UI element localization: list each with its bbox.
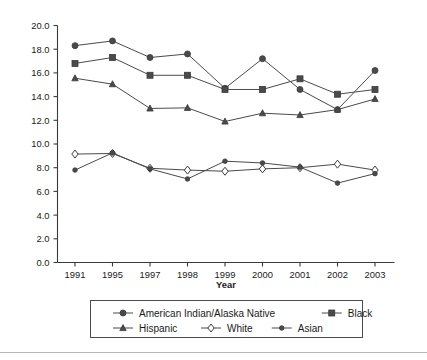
y-tick-label: 12.0	[31, 115, 49, 126]
data-point-marker	[259, 110, 265, 116]
x-tick-label: 1998	[177, 269, 198, 280]
data-point-marker	[72, 75, 78, 81]
x-tick-label: 1999	[215, 269, 236, 280]
data-point-marker	[72, 43, 78, 49]
data-point-marker	[147, 54, 153, 60]
x-tick-label: 2003	[365, 269, 386, 280]
legend-item-label: Hispanic	[139, 323, 177, 334]
data-point-marker	[73, 168, 78, 173]
data-point-marker	[185, 177, 190, 182]
x-tick-label: 1991	[65, 269, 86, 280]
data-point-marker	[147, 72, 153, 78]
legend-item-label: Black	[348, 308, 373, 319]
y-tick-label: 8.0	[36, 162, 49, 173]
y-tick-label: 10.0	[31, 138, 49, 149]
series-2	[72, 75, 378, 124]
data-point-marker	[260, 86, 266, 92]
data-point-marker	[148, 167, 153, 172]
data-point-marker	[72, 150, 78, 158]
data-point-marker	[297, 76, 303, 82]
legend-item[interactable]: American Indian/Alaska Native	[113, 308, 276, 319]
data-point-marker	[185, 51, 191, 57]
legend-group: American Indian/Alaska NativeBlackHispan…	[113, 308, 373, 334]
series-group	[72, 38, 378, 186]
y-tick-label: 4.0	[36, 210, 49, 221]
legend-item-label: White	[227, 323, 253, 334]
data-point-marker	[260, 56, 266, 62]
data-point-marker	[334, 160, 340, 168]
data-point-marker	[298, 165, 303, 170]
legend-item[interactable]: Black	[322, 308, 373, 319]
data-point-marker	[279, 326, 284, 331]
series-line	[75, 41, 375, 110]
x-axis-title: Year	[216, 279, 236, 290]
chart-figure: 0.02.04.06.08.010.012.014.016.018.020.0 …	[0, 0, 427, 360]
data-point-marker	[372, 86, 378, 92]
data-point-marker	[110, 38, 116, 44]
data-point-marker	[335, 181, 340, 186]
series-0	[72, 38, 378, 113]
series-1	[72, 54, 378, 97]
data-point-marker	[185, 72, 191, 78]
data-point-marker	[223, 159, 228, 164]
y-tick-label: 18.0	[31, 44, 49, 55]
y-tick-label: 0.0	[36, 257, 49, 268]
data-point-marker	[222, 167, 228, 175]
data-point-marker	[259, 165, 265, 173]
x-tick-labels: 199119951997199819992000200120022003	[65, 269, 386, 280]
line-chart-svg: 0.02.04.06.08.010.012.014.016.018.020.0 …	[0, 0, 427, 360]
legend-item-label: Asian	[298, 323, 323, 334]
data-point-marker	[222, 86, 228, 92]
data-point-marker	[120, 310, 126, 316]
data-point-marker	[110, 54, 116, 60]
legend-item-label: American Indian/Alaska Native	[139, 308, 276, 319]
y-tick-label: 2.0	[36, 233, 49, 244]
y-tick-marks	[54, 26, 58, 263]
series-line	[75, 78, 375, 121]
x-tick-label: 2001	[290, 269, 311, 280]
legend-item[interactable]: Asian	[272, 323, 323, 334]
x-tick-label: 1997	[140, 269, 161, 280]
data-point-marker	[372, 96, 378, 102]
data-point-marker	[184, 166, 190, 174]
data-point-marker	[260, 161, 265, 166]
data-point-marker	[208, 324, 214, 332]
legend-item[interactable]: White	[201, 323, 253, 334]
y-tick-labels: 0.02.04.06.08.010.012.014.016.018.020.0	[31, 20, 49, 268]
legend-item[interactable]: Hispanic	[113, 323, 177, 334]
x-tick-label: 2000	[252, 269, 273, 280]
y-tick-label: 16.0	[31, 67, 49, 78]
y-tick-label: 6.0	[36, 186, 49, 197]
data-point-marker	[329, 310, 335, 316]
y-tick-label: 14.0	[31, 91, 49, 102]
x-tick-label: 1995	[102, 269, 123, 280]
data-point-marker	[372, 68, 378, 74]
data-point-marker	[373, 171, 378, 176]
y-tick-label: 20.0	[31, 20, 49, 31]
data-point-marker	[110, 151, 115, 156]
data-point-marker	[335, 91, 341, 97]
x-tick-label: 2002	[327, 269, 348, 280]
data-point-marker	[72, 60, 78, 66]
x-tick-marks	[75, 263, 375, 267]
data-point-marker	[297, 86, 303, 92]
